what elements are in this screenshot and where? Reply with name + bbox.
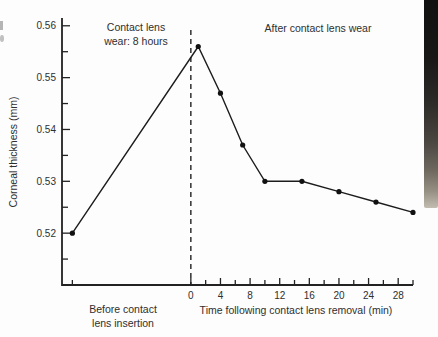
x-tick-label: 0: [188, 290, 194, 301]
page-edge-artifact: [0, 21, 3, 30]
x-tick-label: 4: [218, 290, 224, 301]
data-point: [373, 199, 378, 204]
chart-generated-layer: 04812162024280.520.530.540.550.56: [37, 18, 416, 301]
data-point: [70, 231, 75, 236]
scanned-figure-page: 04812162024280.520.530.540.550.56 Cornea…: [0, 0, 438, 337]
x-tick-label: 20: [333, 290, 345, 301]
x-tick-label: 28: [393, 290, 405, 301]
book-page-edge-strip: [424, 0, 438, 208]
annotation-wear-period-line1: Contact lens: [107, 21, 165, 33]
data-point: [262, 179, 267, 184]
y-axis-label: Corneal thickness (mm): [7, 97, 19, 208]
page-edge-artifact: [0, 35, 4, 42]
thickness-line: [72, 47, 413, 234]
annotation-wear-period-line2: wear: 8 hours: [103, 35, 168, 47]
annotation-before-insertion-line2: lens insertion: [92, 317, 154, 329]
y-tick-label: 0.52: [37, 228, 57, 239]
x-tick-label: 8: [247, 290, 253, 301]
annotation-after-wear: After contact lens wear: [265, 22, 372, 34]
data-point: [299, 179, 304, 184]
data-point: [196, 44, 201, 49]
x-tick-label: 16: [304, 290, 316, 301]
axes: [62, 18, 413, 285]
corneal-thickness-chart: 04812162024280.520.530.540.550.56 Cornea…: [0, 0, 438, 337]
annotation-before-insertion-line1: Before contact: [89, 303, 157, 315]
x-axis-label: Time following contact lens removal (min…: [200, 304, 393, 316]
y-tick-label: 0.55: [37, 72, 57, 83]
x-tick-label: 24: [363, 290, 375, 301]
data-point: [240, 142, 245, 147]
x-tick-label: 12: [274, 290, 286, 301]
data-point: [336, 189, 341, 194]
data-point: [410, 210, 415, 215]
y-tick-label: 0.56: [37, 20, 57, 31]
data-point: [218, 91, 223, 96]
y-tick-label: 0.54: [37, 124, 57, 135]
y-tick-label: 0.53: [37, 176, 57, 187]
